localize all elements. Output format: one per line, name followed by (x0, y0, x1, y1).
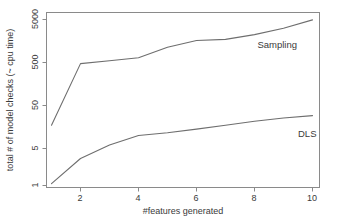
x-tick-labels: 2 4 6 8 10 (77, 193, 317, 203)
y-tick-labels: 1 5 50 500 5000 (30, 9, 40, 188)
x-tick-label-6: 6 (193, 193, 198, 203)
x-axis-title: #features generated (143, 206, 224, 216)
y-tick-label-500: 500 (30, 54, 40, 69)
chart-figure: 1 5 50 500 5000 2 4 6 8 10 #features gen… (0, 0, 337, 220)
y-tick-label-50: 50 (30, 100, 40, 110)
series-line-dls (52, 116, 313, 184)
series-line-sampling (52, 20, 313, 125)
x-tick-label-8: 8 (251, 193, 256, 203)
series-label-sampling: Sampling (257, 39, 297, 50)
y-tick-marks (43, 20, 47, 186)
y-tick-label-1: 1 (30, 182, 40, 187)
x-tick-label-10: 10 (307, 193, 317, 203)
x-tick-label-4: 4 (135, 193, 140, 203)
y-tick-label-5: 5 (30, 145, 40, 150)
y-axis-title: total # of model checks (~ cpu time) (5, 29, 15, 171)
x-tick-label-2: 2 (77, 193, 82, 203)
x-tick-marks (81, 188, 313, 192)
y-tick-label-5000: 5000 (30, 9, 40, 29)
series-label-dls: DLS (298, 128, 316, 139)
line-chart: 1 5 50 500 5000 2 4 6 8 10 #features gen… (0, 0, 337, 220)
